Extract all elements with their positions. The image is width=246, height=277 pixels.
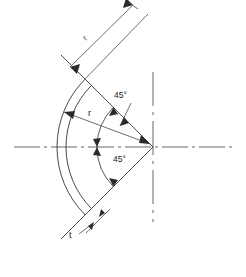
upper-angle-arrowhead-top: [109, 107, 118, 116]
upper-angle-leader-arrowhead: [120, 117, 129, 126]
inner-radius-arrowhead-inner: [139, 135, 150, 144]
lower-ray: [61, 147, 153, 239]
inner-radius-arrowhead-outer: [64, 111, 75, 119]
technical-drawing-canvas: Dished head cross-section with 45 degree…: [0, 0, 246, 277]
lower-angle-dimension: 45°: [93, 147, 126, 187]
upper-angle-label: 45°: [114, 90, 127, 100]
thickness-label: t: [69, 230, 72, 240]
outer-radius-dimension: r: [70, 0, 148, 79]
lower-angle-label: 45°: [113, 154, 126, 164]
upper-angle-dimension: 45°: [93, 90, 131, 147]
thickness-dimension-line: [86, 209, 110, 233]
dished-head-cross-section-drawing: Dished head cross-section with 45 degree…: [0, 0, 246, 277]
inner-radius-dimension: r: [64, 108, 150, 144]
lower-angle-arrowhead-top: [93, 147, 101, 156]
thickness-arrowhead-inner: [99, 209, 105, 217]
outer-radius-label: r: [80, 33, 89, 42]
outer-radius-dimension-line: [70, 5, 133, 67]
inner-radius-dimension-line: [64, 112, 150, 144]
inner-radius-label: r: [88, 108, 91, 118]
upper-angle-arrowhead-bottom: [93, 138, 101, 147]
lower-angle-arrowhead-bottom: [109, 178, 118, 187]
outer-radius-extension-line: [85, 14, 148, 79]
